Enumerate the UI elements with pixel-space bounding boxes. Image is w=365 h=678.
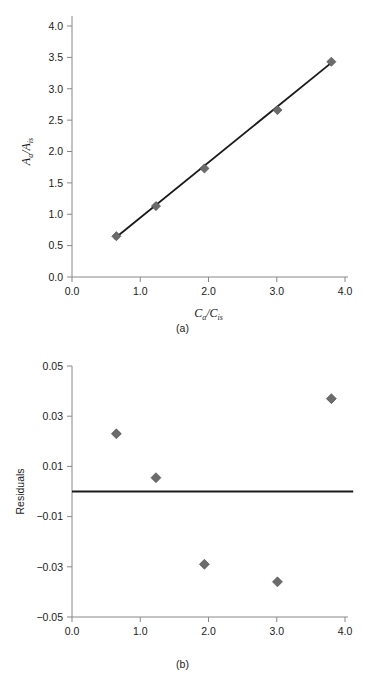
x-tick-label: 1.0 (133, 625, 148, 637)
y-tick-label: 0.03 (43, 410, 64, 422)
y-tick-label: 3.5 (48, 51, 63, 63)
y-tick-label: −0.03 (36, 561, 63, 573)
y-tick-label: 2.5 (48, 114, 63, 126)
y-tick-label: 0.0 (48, 271, 63, 283)
regression-line (114, 61, 333, 239)
x-tick-label: 1.0 (133, 285, 148, 297)
chart-panel-a: 0.00.51.01.52.02.53.03.54.00.01.02.03.04… (0, 0, 365, 340)
x-tick-label: 4.0 (338, 625, 353, 637)
y-tick-label: 0.01 (43, 460, 64, 472)
y-tick-label: 0.5 (48, 239, 63, 251)
data-point-marker (199, 559, 209, 569)
y-tick-label: −0.05 (36, 611, 63, 623)
data-point-marker (151, 473, 161, 483)
x-tick-label: 2.0 (201, 285, 216, 297)
data-point-marker (273, 105, 282, 114)
figure-container: 0.00.51.01.52.02.53.03.54.00.01.02.03.04… (0, 0, 365, 678)
y-tick-label: 1.0 (48, 208, 63, 220)
y-axis-title: Residuals (14, 468, 26, 514)
x-tick-label: 3.0 (269, 625, 284, 637)
y-tick-label: 3.0 (48, 83, 63, 95)
y-tick-label: 1.5 (48, 177, 63, 189)
x-tick-label: 0.0 (65, 285, 80, 297)
y-tick-label: 0.05 (43, 360, 64, 372)
x-tick-label: 0.0 (65, 625, 80, 637)
data-point-marker (112, 232, 121, 241)
y-axis-title: Aa/Ais (19, 138, 35, 166)
x-axis-title: Ca/Cis (194, 306, 223, 322)
data-point-marker (326, 394, 336, 404)
x-tick-label: 2.0 (201, 625, 216, 637)
chart-panel-b: 0.050.030.01−0.01−0.03−0.050.01.02.03.04… (0, 340, 365, 678)
residuals-plot: 0.050.030.01−0.01−0.03−0.050.01.02.03.04… (0, 340, 365, 658)
panel-a-caption: (a) (0, 322, 365, 334)
data-point-marker (111, 429, 121, 439)
data-point-marker (200, 164, 209, 173)
y-tick-label: −0.01 (36, 510, 63, 522)
calibration-curve-plot: 0.00.51.01.52.02.53.03.54.00.01.02.03.04… (0, 0, 365, 322)
y-tick-label: 4.0 (48, 20, 63, 32)
y-tick-label: 2.0 (48, 145, 63, 157)
data-point-marker (272, 577, 282, 587)
x-tick-label: 4.0 (338, 285, 353, 297)
panel-b-caption: (b) (0, 658, 365, 670)
x-tick-label: 3.0 (269, 285, 284, 297)
